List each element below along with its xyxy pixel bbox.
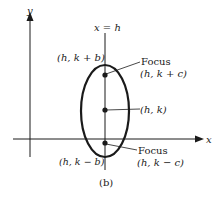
x-axis-arrow-icon (195, 136, 204, 143)
ellipse-diagram: y x x = h (h, k + b) (h, k − b) Focus (h… (0, 0, 212, 198)
x-axis-label: x (206, 134, 212, 145)
center-leader (106, 109, 140, 110)
bottom-vertex-label: (h, k − b) (59, 156, 105, 167)
upper-focus-leader (106, 62, 140, 74)
upper-focus-coords: (h, k + c) (140, 68, 187, 79)
top-vertex-label: (h, k + b) (57, 52, 105, 63)
lower-focus-point (102, 140, 107, 145)
lower-focus-title: Focus (138, 145, 168, 156)
figure-caption: (b) (99, 177, 113, 188)
center-label: (h, k) (140, 104, 167, 115)
y-axis-label: y (26, 5, 33, 16)
line-x-equals-h-label: x = h (94, 22, 121, 33)
upper-focus-title: Focus (141, 56, 171, 67)
upper-focus-point (102, 72, 107, 77)
lower-focus-coords: (h, k − c) (137, 157, 184, 168)
